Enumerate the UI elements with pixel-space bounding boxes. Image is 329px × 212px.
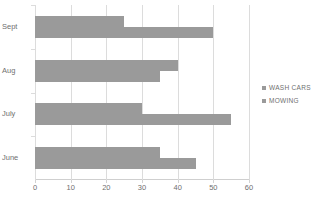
bar xyxy=(35,147,160,158)
category-label: June xyxy=(2,153,33,162)
bar xyxy=(35,114,231,125)
value-tick-label: 30 xyxy=(138,183,146,192)
category-label-text: Aug xyxy=(2,66,33,75)
legend-item-label: MOWING xyxy=(269,97,299,104)
bar xyxy=(35,103,142,114)
bar xyxy=(35,27,213,38)
value-tick-label: 20 xyxy=(102,183,110,192)
category-label-text: June xyxy=(2,153,33,162)
category-tick xyxy=(31,93,35,94)
gridline xyxy=(249,5,250,180)
category-label: Aug xyxy=(2,66,33,75)
legend-item[interactable]: MOWING xyxy=(262,97,328,104)
bar-group xyxy=(35,147,249,169)
value-tick-label: 0 xyxy=(33,183,37,192)
square-marker-icon xyxy=(262,86,266,90)
legend-item[interactable]: WASH CARS xyxy=(262,84,328,91)
legend-item-label: WASH CARS xyxy=(269,84,311,91)
bar xyxy=(35,71,160,82)
category-label: July xyxy=(2,109,33,118)
value-tick-label: 50 xyxy=(209,183,217,192)
value-tick-label: 40 xyxy=(173,183,181,192)
bar-group xyxy=(35,60,249,82)
category-label-text: July xyxy=(2,109,33,118)
bar-group xyxy=(35,16,249,38)
chart-legend: WASH CARSMOWING xyxy=(262,84,328,110)
chart-title xyxy=(40,0,190,3)
category-label-text: Sept xyxy=(2,22,33,31)
value-tick-label: 10 xyxy=(66,183,74,192)
bar xyxy=(35,158,196,169)
square-marker-icon xyxy=(262,99,266,103)
value-axis-labels: 0102030405060 xyxy=(0,183,329,197)
bar xyxy=(35,16,124,27)
category-label: Sept xyxy=(2,22,33,31)
bar xyxy=(35,60,178,71)
plot-area xyxy=(35,5,249,180)
value-tick-label: 60 xyxy=(245,183,253,192)
bar-group xyxy=(35,103,249,125)
category-tick xyxy=(31,136,35,137)
bar-chart: SeptAugJulyJune 0102030405060 WASH CARSM… xyxy=(0,0,329,212)
category-tick xyxy=(31,49,35,50)
category-tick xyxy=(31,5,35,6)
